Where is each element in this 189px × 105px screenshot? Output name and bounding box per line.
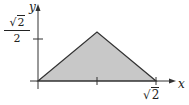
sqrt-symbol: √ bbox=[143, 88, 151, 102]
radicand: 2 bbox=[17, 15, 25, 29]
sqrt-symbol: √ bbox=[9, 16, 16, 29]
shaded-triangle bbox=[38, 32, 156, 81]
x-tick-label-sqrt2: √2 bbox=[143, 89, 159, 101]
y-axis-label: y bbox=[29, 1, 36, 13]
y-tick-label: √2 2 bbox=[4, 16, 30, 45]
radicand: 2 bbox=[151, 87, 160, 102]
denominator: 2 bbox=[4, 31, 30, 45]
y-axis-arrow-icon bbox=[36, 4, 41, 11]
x-axis-label: x bbox=[178, 78, 185, 90]
x-axis-arrow-icon bbox=[169, 79, 176, 84]
